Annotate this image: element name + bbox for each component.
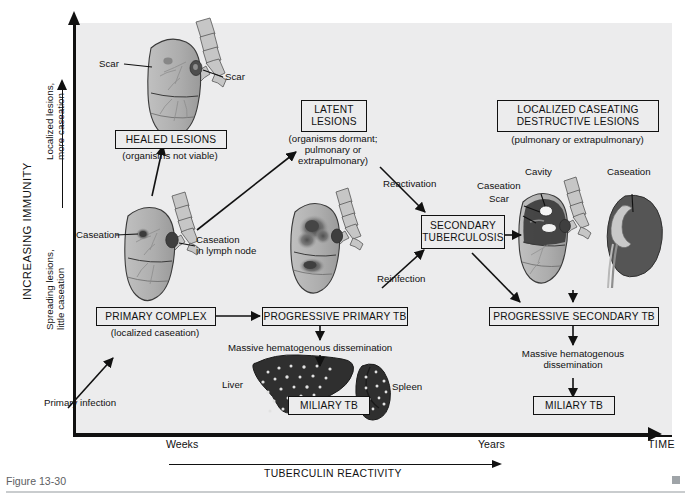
- label-primary-infection: Primary infection: [44, 397, 116, 408]
- box-secondary-tb-line2: TUBERCULOSIS: [422, 232, 504, 244]
- label-reactivation: Reactivation: [383, 178, 436, 189]
- caption-end-marker: [672, 476, 680, 484]
- label-caseation-lymph-line1: Caseation: [196, 234, 240, 245]
- immunity-gradient-arrow-shaft: [62, 88, 64, 208]
- figure-caption: Figure 13-30: [6, 475, 66, 487]
- tuberculin-reactivity-arrow-shaft: [169, 464, 494, 465]
- x-axis-line: [73, 433, 653, 436]
- box-primary-complex-subtitle: (localized caseation): [96, 327, 214, 338]
- box-latent-lesions[interactable]: LATENT LESIONS: [301, 100, 367, 132]
- label-caseation-lymph-node: Caseation in lymph node: [196, 234, 256, 256]
- label-caseation-left: Caseation: [76, 229, 120, 240]
- box-primary-complex[interactable]: PRIMARY COMPLEX: [96, 307, 216, 326]
- label-scar-right: Scar: [225, 71, 245, 82]
- y-axis-upper-label: Localized lesions, more caseation: [44, 83, 67, 160]
- label-dissemination-right: Massive hematogenous dissemination: [505, 348, 641, 370]
- box-latent-subtitle-line1: (organisms dormant;: [289, 133, 378, 144]
- box-secondary-tb-line1: SECONDARY: [430, 220, 496, 232]
- label-caseation-kidney: Caseation: [607, 166, 651, 177]
- immunity-gradient-arrow-head: [57, 79, 67, 90]
- label-reinfection: Reinfection: [377, 273, 425, 284]
- box-secondary-tuberculosis[interactable]: SECONDARY TUBERCULOSIS: [421, 215, 505, 249]
- caption-rule: [6, 491, 685, 493]
- label-dissemination-right-line2: dissemination: [543, 359, 602, 370]
- label-caseation-cavity: Caseation: [477, 180, 521, 191]
- y-axis-arrowhead: [68, 11, 80, 25]
- label-cavity: Cavity: [525, 166, 552, 177]
- box-healed-lesions-subtitle: (organisms not viable): [106, 150, 234, 161]
- y-axis-upper-label-line1: Localized lesions,: [44, 83, 55, 160]
- tuberculin-reactivity-arrow-head: [492, 460, 502, 468]
- x-axis-tick-weeks: Weeks: [166, 438, 198, 450]
- figure-canvas: INCREASING IMMUNITY Localized lesions, m…: [0, 0, 691, 497]
- box-miliary-tb-right[interactable]: MILIARY TB: [533, 396, 615, 415]
- x-axis-title: TIME: [648, 438, 675, 450]
- box-progressive-secondary-tb[interactable]: PROGRESSIVE SECONDARY TB: [489, 307, 659, 326]
- box-latent-lesions-line2: LESIONS: [311, 116, 357, 128]
- box-miliary-tb-left[interactable]: MILIARY TB: [288, 396, 370, 415]
- label-scar-cavity: Scar: [489, 193, 509, 204]
- label-liver: Liver: [222, 379, 243, 390]
- box-latent-subtitle-line2: pulmonary or extrapulmonary): [298, 144, 368, 166]
- label-caseation-lymph-line2: in lymph node: [196, 245, 256, 256]
- box-localized-caseating-destructive-lesions[interactable]: LOCALIZED CASEATING DESTRUCTIVE LESIONS: [497, 100, 659, 132]
- box-localized-line2: DESTRUCTIVE LESIONS: [517, 116, 640, 128]
- label-scar-left: Scar: [99, 58, 119, 69]
- box-latent-lesions-line1: LATENT: [314, 104, 354, 116]
- x-axis-tick-years: Years: [478, 438, 505, 450]
- box-latent-lesions-subtitle: (organisms dormant; pulmonary or extrapu…: [276, 133, 390, 167]
- box-localized-line1: LOCALIZED CASEATING: [517, 104, 638, 116]
- diagram-panel: [73, 23, 672, 437]
- box-healed-lesions[interactable]: HEALED LESIONS: [115, 130, 227, 149]
- box-localized-subtitle: (pulmonary or extrapulmonary): [490, 134, 665, 145]
- y-axis-title: INCREASING IMMUNITY: [21, 162, 33, 300]
- label-dissemination-right-line1: Massive hematogenous: [522, 348, 624, 359]
- y-axis-lower-label-line1: Spreading lesions,: [44, 249, 55, 330]
- label-spleen: Spleen: [392, 381, 422, 392]
- tuberculin-reactivity-label: TUBERCULIN REACTIVITY: [264, 468, 402, 479]
- y-axis-lower-label: Spreading lesions, little caseation: [44, 249, 67, 330]
- label-dissemination-left: Massive hematogenous dissemination: [228, 342, 392, 353]
- y-axis-lower-label-line2: little caseation: [55, 249, 66, 330]
- box-progressive-primary-tb[interactable]: PROGRESSIVE PRIMARY TB: [262, 307, 408, 326]
